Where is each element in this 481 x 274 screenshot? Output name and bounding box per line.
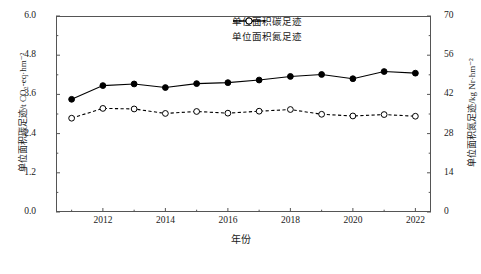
y-tick-label-left: 2.4: [2, 128, 36, 138]
data-point: [256, 77, 262, 83]
series-line-carbon: [72, 72, 416, 100]
data-point: [131, 81, 137, 87]
x-tick-label: 2014: [145, 215, 185, 225]
chart-figure: 单位面积碳足迹/t CO₂-eq·hm⁻² 单位面积氮足迹/kg Nr·hm⁻²…: [0, 0, 481, 274]
data-point: [350, 76, 356, 82]
y-tick-label-left: 3.6: [2, 88, 36, 98]
legend: 单位面积碳足迹 单位面积氮足迹: [232, 15, 302, 45]
x-tick-label: 2018: [270, 215, 310, 225]
series-line-nitrogen: [72, 108, 416, 118]
legend-swatch-dashed-open: [232, 15, 266, 27]
y-tick-label-right: 28: [444, 128, 478, 138]
data-point: [194, 81, 200, 87]
data-point: [287, 74, 293, 80]
data-point: [287, 107, 293, 113]
x-tick-label: 2020: [333, 215, 373, 225]
data-point: [319, 111, 325, 117]
data-point: [381, 69, 387, 75]
data-point: [319, 72, 325, 78]
data-point: [412, 70, 418, 76]
data-point: [162, 85, 168, 91]
legend-item-nitrogen: 单位面积氮足迹: [232, 30, 302, 45]
x-axis-title: 年份: [0, 231, 481, 246]
y-tick-label-right: 42: [444, 88, 478, 98]
series-canvas: [56, 16, 431, 212]
y-tick-label-left: 4.8: [2, 49, 36, 59]
data-point: [225, 80, 231, 86]
data-point: [69, 96, 75, 102]
data-point: [131, 106, 137, 112]
data-point: [100, 83, 106, 89]
x-tick-label: 2016: [208, 215, 248, 225]
data-point: [162, 111, 168, 117]
data-point: [256, 108, 262, 114]
legend-label-nitrogen: 单位面积氮足迹: [232, 30, 302, 45]
y-tick-label-left: 6.0: [2, 10, 36, 20]
data-point: [100, 106, 106, 112]
x-tick-label: 2012: [83, 215, 123, 225]
data-point: [381, 112, 387, 118]
plot-area: [56, 16, 431, 212]
y-tick-label-left: 1.2: [2, 167, 36, 177]
x-tick-label: 2022: [395, 215, 435, 225]
y-tick-label-left: 0.0: [2, 206, 36, 216]
y-tick-label-right: 70: [444, 10, 478, 20]
y-tick-label-right: 14: [444, 167, 478, 177]
data-point: [194, 109, 200, 115]
data-point: [225, 110, 231, 116]
data-point: [412, 113, 418, 119]
data-point: [69, 115, 75, 121]
data-point: [350, 113, 356, 119]
y-tick-label-right: 0: [444, 206, 478, 216]
y-tick-label-right: 56: [444, 49, 478, 59]
